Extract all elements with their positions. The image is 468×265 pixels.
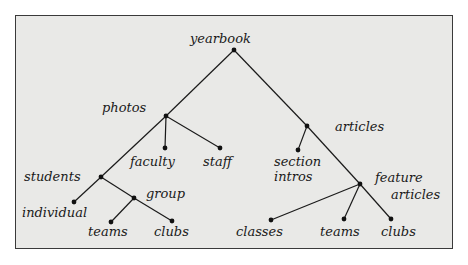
node-students xyxy=(99,175,104,180)
label-teams_photos: teams xyxy=(88,224,128,239)
label-feature_articles: feature xyxy=(374,170,423,185)
edge-photos-faculty xyxy=(165,116,166,148)
node-clubs_articles xyxy=(389,217,394,222)
label-section_intros-line2: intros xyxy=(274,169,313,184)
node-articles xyxy=(305,124,310,129)
node-photos xyxy=(164,114,169,119)
label-group: group xyxy=(146,186,186,201)
label-feature_articles-line2: articles xyxy=(391,187,440,202)
node-faculty xyxy=(163,146,168,151)
tree-labels: yearbookphotosarticlesfacultystaffsectio… xyxy=(22,31,440,239)
node-classes xyxy=(269,218,274,223)
node-clubs_photos xyxy=(170,219,175,224)
label-students: students xyxy=(24,169,81,184)
node-feature_articles xyxy=(358,182,363,187)
edge-articles-section_intros xyxy=(298,126,307,150)
edge-yearbook-photos xyxy=(166,50,234,116)
node-yearbook xyxy=(232,48,237,53)
label-yearbook: yearbook xyxy=(189,31,251,46)
label-section_intros: section xyxy=(274,154,321,169)
node-teams_articles xyxy=(342,217,347,222)
label-photos: photos xyxy=(102,100,147,115)
label-individual: individual xyxy=(22,205,87,220)
edge-students-group xyxy=(101,177,134,198)
edge-yearbook-articles xyxy=(234,50,307,126)
label-staff: staff xyxy=(203,154,235,169)
tree-nodes xyxy=(72,48,394,225)
label-classes: classes xyxy=(236,224,283,239)
tree-edges xyxy=(74,50,391,222)
node-section_intros xyxy=(296,148,301,153)
node-individual xyxy=(72,200,77,205)
label-clubs_articles: clubs xyxy=(381,224,416,239)
node-group xyxy=(132,196,137,201)
label-teams_articles: teams xyxy=(320,224,360,239)
label-articles: articles xyxy=(335,119,384,134)
edge-feature_articles-clubs_articles xyxy=(360,184,391,219)
edge-group-teams_photos xyxy=(111,198,134,222)
edge-group-clubs_photos xyxy=(134,198,172,221)
label-clubs_photos: clubs xyxy=(154,224,189,239)
edge-photos-staff xyxy=(166,116,220,148)
node-staff xyxy=(218,146,223,151)
label-faculty: faculty xyxy=(129,154,176,169)
yearbook-tree-diagram: yearbookphotosarticlesfacultystaffsectio… xyxy=(0,0,468,265)
